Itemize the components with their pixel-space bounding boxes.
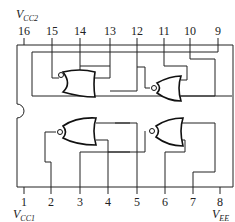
pin-13-label: 13 — [104, 24, 116, 38]
pin-1-label: 1 — [21, 195, 27, 209]
bottom-left-nor-bubble — [58, 130, 63, 135]
top-pin-ticks — [24, 38, 218, 45]
bottom-pin-ticks — [24, 187, 220, 194]
package-outline — [17, 45, 233, 187]
pin-11-label: 11 — [158, 24, 170, 38]
pin-7-label: 7 — [190, 195, 196, 209]
pin-5-label: 5 — [134, 195, 140, 209]
top-pin-labels: 16 15 14 13 12 11 10 9 — [18, 24, 221, 38]
top-right-nor-gate — [157, 76, 181, 101]
bottom-left-nor-gate — [63, 118, 96, 145]
pin-15-label: 15 — [46, 24, 58, 38]
vcc2-label: VCC2 — [16, 7, 38, 23]
pin-2-label: 2 — [48, 195, 54, 209]
ic-pinout-diagram: 16 15 14 13 12 11 10 9 1 2 3 4 5 6 7 8 V… — [0, 0, 235, 222]
bottom-right-nor-gate — [156, 118, 183, 146]
pin-4-label: 4 — [105, 195, 111, 209]
bottom-pin-labels: 1 2 3 4 5 6 7 8 — [21, 195, 223, 209]
pin-16-label: 16 — [18, 24, 30, 38]
top-left-nor-bubble — [59, 73, 64, 78]
vcc1-label: VCC1 — [13, 207, 35, 222]
top-left-nor-gate — [63, 70, 95, 97]
pin-12-label: 12 — [131, 24, 143, 38]
pin-3-label: 3 — [77, 195, 83, 209]
pin-6-label: 6 — [162, 195, 168, 209]
top-right-nor-bubble — [152, 86, 157, 91]
inner-rail — [32, 45, 232, 96]
pin-10-label: 10 — [184, 24, 196, 38]
bottom-right-nor-bubble — [150, 129, 155, 134]
pin-14-label: 14 — [74, 24, 86, 38]
pin-9-label: 9 — [215, 24, 221, 38]
vee-label: VEE — [212, 207, 229, 222]
